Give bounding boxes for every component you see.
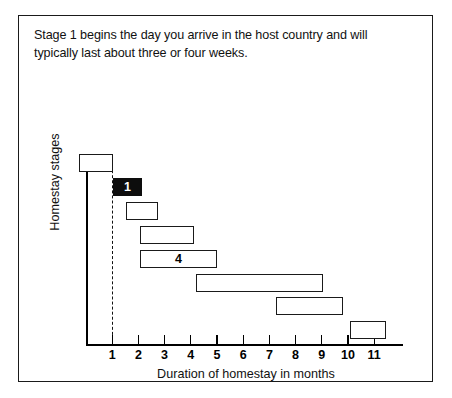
x-tick-label-9: 9 xyxy=(310,348,334,362)
x-tick-2 xyxy=(138,335,139,345)
x-tick-label-2: 2 xyxy=(126,348,150,362)
x-tick-label-4: 4 xyxy=(179,348,203,362)
x-tick-label-5: 5 xyxy=(205,348,229,362)
bar-stage-5 xyxy=(196,274,323,292)
bar-label-stage-1: 1 xyxy=(114,181,141,194)
x-axis-line xyxy=(86,344,403,346)
x-tick-label-11: 11 xyxy=(362,348,386,362)
x-tick-label-6: 6 xyxy=(231,348,255,362)
bar-stage-1: 1 xyxy=(113,178,142,196)
x-tick-6 xyxy=(243,335,244,345)
x-tick-label-1: 1 xyxy=(100,348,124,362)
x-tick-3 xyxy=(164,335,165,345)
bar-stage-3 xyxy=(140,226,194,244)
x-tick-label-7: 7 xyxy=(257,348,281,362)
bar-stage-2 xyxy=(126,202,158,220)
bar-stage-0 xyxy=(79,154,113,172)
y-axis-title: Homestay stages xyxy=(48,107,62,257)
x-tick-10 xyxy=(347,335,348,345)
x-tick-7 xyxy=(269,335,270,345)
x-tick-4 xyxy=(190,335,191,345)
x-tick-9 xyxy=(321,335,322,345)
bar-label-stage-4: 4 xyxy=(141,252,216,265)
bar-stage-6 xyxy=(276,297,343,315)
x-tick-label-8: 8 xyxy=(284,348,308,362)
bar-stage-7 xyxy=(350,321,386,339)
x-tick-label-10: 10 xyxy=(336,348,360,362)
chart-plot-area: 1234567891011 14 Duration of homestay in… xyxy=(18,15,433,382)
x-axis-title: Duration of homestay in months xyxy=(86,367,406,381)
x-tick-5 xyxy=(216,335,217,345)
bar-stage-4: 4 xyxy=(140,250,217,268)
x-tick-8 xyxy=(295,335,296,345)
x-tick-label-3: 3 xyxy=(153,348,177,362)
x-tick-1 xyxy=(112,335,113,345)
y-axis-line xyxy=(86,155,88,346)
